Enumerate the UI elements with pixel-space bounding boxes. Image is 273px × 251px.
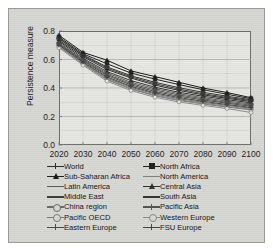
legend-item: China region — [47, 202, 137, 212]
legend-item: Sub-Saharan Africa — [47, 171, 137, 181]
legend-item: South Asia — [143, 192, 233, 202]
legend-label: North America — [160, 172, 208, 181]
legend-item: Eastern Europe — [47, 222, 137, 232]
x-tick-label: 2050 — [118, 149, 144, 159]
figure-panel: Persistence measure 0.80.60.40.20.0 2020… — [8, 8, 265, 243]
legend-item: Pacific Asia — [143, 202, 233, 212]
legend-label: North Africa — [160, 162, 200, 171]
legend-label: South Asia — [160, 192, 196, 201]
legend-marker-icon — [47, 223, 64, 232]
legend-marker-icon — [143, 192, 160, 201]
legend-marker-icon — [143, 162, 160, 171]
legend-item: World — [47, 161, 137, 171]
legend-marker-icon — [47, 182, 64, 191]
legend-label: FSU Europe — [160, 223, 202, 232]
chart-plot-area: Persistence measure 0.80.60.40.20.0 2020… — [9, 9, 266, 244]
legend-marker-icon — [143, 182, 160, 191]
x-tick-label: 2100 — [238, 149, 264, 159]
legend-marker-icon — [143, 202, 160, 211]
legend-label: Middle East — [64, 192, 104, 201]
legend-label: Pacific OECD — [64, 213, 110, 222]
legend-item: Western Europe — [143, 212, 233, 222]
legend-label: World — [64, 162, 84, 171]
x-tick-label: 2040 — [94, 149, 120, 159]
series-lines — [59, 31, 251, 145]
x-tick-label: 2060 — [142, 149, 168, 159]
legend-marker-icon — [47, 162, 64, 171]
legend-marker-icon — [47, 213, 64, 222]
x-tick-label: 2080 — [190, 149, 216, 159]
legend-item: Latin America — [47, 181, 137, 191]
legend-label: Latin America — [64, 182, 110, 191]
x-tick-label: 2020 — [46, 149, 72, 159]
legend-item: North Africa — [143, 161, 233, 171]
legend-marker-icon — [47, 172, 64, 181]
legend-marker-icon — [47, 202, 64, 211]
legend-label: China region — [64, 202, 107, 211]
legend-label: Eastern Europe — [64, 223, 117, 232]
x-tick-label: 2090 — [214, 149, 240, 159]
legend-marker-icon — [143, 223, 160, 232]
legend-marker-icon — [143, 172, 160, 181]
legend-label: Sub-Saharan Africa — [64, 172, 130, 181]
legend-label: Central Asia — [160, 182, 201, 191]
x-tick-label: 2070 — [166, 149, 192, 159]
legend-marker-icon — [143, 213, 160, 222]
legend-item: Middle East — [47, 192, 137, 202]
legend-label: Pacific Asia — [160, 202, 199, 211]
legend-label: Western Europe — [160, 213, 215, 222]
legend-item: Pacific OECD — [47, 212, 137, 222]
chart-legend: WorldNorth AfricaSub-Saharan AfricaNorth… — [47, 161, 233, 233]
x-tick-label: 2030 — [70, 149, 96, 159]
legend-item: FSU Europe — [143, 222, 233, 232]
legend-item: Central Asia — [143, 181, 233, 191]
legend-item: North America — [143, 171, 233, 181]
legend-marker-icon — [47, 192, 64, 201]
